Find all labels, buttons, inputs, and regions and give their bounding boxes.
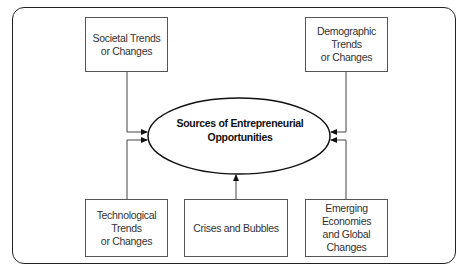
source-box-technological: Technological Trends or Changes	[85, 199, 168, 257]
source-box-emerging: Emerging Economies and Global Changes	[305, 199, 388, 257]
arrow-demographic	[331, 71, 346, 132]
source-box-crises: Crises and Bubbles	[184, 199, 288, 257]
source-box-demographic: Demographic Trends or Changes	[305, 17, 388, 72]
source-box-societal: Societal Trends or Changes	[85, 17, 168, 72]
arrow-technological	[127, 140, 147, 199]
arrow-emerging	[331, 140, 346, 199]
center-label: Sources of Entrepreneurial Opportunities	[150, 116, 330, 144]
arrow-societal	[127, 71, 147, 132]
